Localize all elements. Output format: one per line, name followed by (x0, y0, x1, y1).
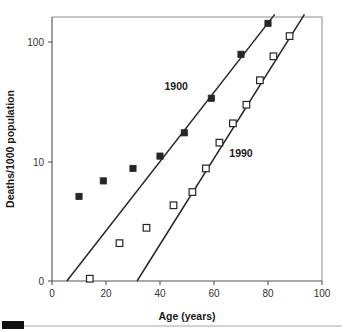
x-tick-label: 60 (208, 288, 220, 299)
data-point-1990 (243, 101, 250, 108)
x-tick-label: 20 (100, 288, 112, 299)
data-point-1990 (257, 77, 264, 84)
y-axis-title: Deaths/1000 population (4, 90, 16, 208)
footer-marker-block (2, 321, 24, 329)
x-tick-label: 40 (154, 288, 166, 299)
data-point-1900 (157, 153, 163, 159)
data-point-1900 (238, 51, 244, 57)
y-tick-label: 10 (33, 157, 45, 168)
data-point-1900 (100, 178, 106, 184)
data-point-1900 (208, 95, 214, 101)
series-label-1990: 1990 (229, 147, 253, 159)
x-axis-title: Age (years) (158, 310, 215, 322)
y-tick-label: 100 (27, 37, 44, 48)
x-tick-label: 80 (262, 288, 274, 299)
data-point-1990 (286, 33, 293, 40)
x-tick-label: 0 (49, 288, 55, 299)
data-point-1990 (189, 189, 196, 196)
data-point-1900 (76, 193, 82, 199)
data-point-1990 (270, 53, 277, 60)
data-point-1990 (116, 240, 123, 247)
data-point-1990 (203, 165, 210, 172)
data-point-1900 (181, 130, 187, 136)
series-label-1900: 1900 (165, 80, 189, 92)
data-point-1990 (87, 275, 94, 282)
data-point-1990 (216, 139, 223, 146)
data-point-1990 (143, 224, 150, 231)
y-tick-label: 0 (38, 276, 44, 287)
data-point-1990 (170, 202, 177, 209)
data-point-1900 (130, 165, 136, 171)
deaths-per-1000-by-age-chart: 020406080100 010100 19001990 Age (years)… (0, 0, 346, 332)
data-point-1990 (230, 120, 237, 127)
chart-figure: 020406080100 010100 19001990 Age (years)… (0, 0, 346, 332)
x-tick-label: 100 (314, 288, 331, 299)
data-point-1900 (265, 20, 271, 26)
